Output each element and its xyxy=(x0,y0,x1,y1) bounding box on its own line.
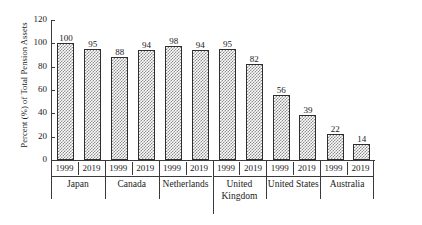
x-axis-group: 19992019Netherlands xyxy=(159,161,213,217)
country-label: Netherlands xyxy=(159,177,213,191)
year-row: 19992019 xyxy=(105,161,159,176)
bar-value-label: 82 xyxy=(250,54,259,64)
bars-layer: 1009588949894958256392214 xyxy=(52,20,375,160)
bar-chart: Percent (%) of Total Pension Assets 0204… xyxy=(0,0,422,225)
x-axis-group: 19992019Australia xyxy=(320,161,374,217)
x-axis-group: 19992019Canada xyxy=(105,161,159,217)
bar-value-label: 100 xyxy=(59,33,73,43)
y-tick-label: 120 xyxy=(34,14,48,24)
bar-value-label: 94 xyxy=(142,40,151,50)
bar-value-label: 98 xyxy=(169,36,178,46)
y-tick-label: 40 xyxy=(38,107,47,117)
bar: 98 xyxy=(165,46,182,160)
year-label: 1999 xyxy=(266,161,293,176)
country-label: Australia xyxy=(320,177,374,191)
year-label: 2019 xyxy=(347,161,374,176)
bar: 82 xyxy=(246,64,263,160)
country-label: Canada xyxy=(105,177,159,191)
y-tick-label: 80 xyxy=(38,61,47,71)
bar: 56 xyxy=(273,95,290,160)
bar-value-label: 95 xyxy=(223,39,232,49)
x-axis-category-table: 19992019Japan19992019Canada19992019Nethe… xyxy=(51,161,375,217)
year-row: 19992019 xyxy=(213,161,267,176)
bar-value-label: 56 xyxy=(277,85,286,95)
y-tick-label: 60 xyxy=(38,84,47,94)
bar-value-label: 39 xyxy=(303,105,312,115)
y-tick-label: 20 xyxy=(38,131,47,141)
country-label: United States xyxy=(266,177,320,191)
year-divider xyxy=(239,162,240,175)
y-axis-title: Percent (%) of Total Pension Assets xyxy=(19,5,29,165)
year-label: 1999 xyxy=(320,161,347,176)
bar-value-label: 22 xyxy=(331,124,340,134)
year-label: 2019 xyxy=(293,161,320,176)
year-label: 1999 xyxy=(159,161,186,176)
bar: 14 xyxy=(353,144,370,160)
year-divider xyxy=(132,162,133,175)
bar: 95 xyxy=(84,49,101,160)
year-label: 2019 xyxy=(78,161,105,176)
year-row: 19992019 xyxy=(159,161,213,176)
country-label: UnitedKingdom xyxy=(213,177,267,202)
country-label: Japan xyxy=(51,177,105,191)
y-tick-label: 0 xyxy=(43,154,48,164)
x-axis-group: 19992019UnitedKingdom xyxy=(213,161,267,217)
year-label: 2019 xyxy=(132,161,159,176)
year-divider xyxy=(347,162,348,175)
bar: 88 xyxy=(111,57,128,160)
bar: 94 xyxy=(138,50,155,160)
x-axis-group: 19992019Japan xyxy=(51,161,105,217)
x-axis-group: 19992019United States xyxy=(266,161,320,217)
year-divider xyxy=(186,162,187,175)
year-divider xyxy=(293,162,294,175)
year-label: 1999 xyxy=(105,161,132,176)
year-label: 2019 xyxy=(239,161,266,176)
bar-value-label: 88 xyxy=(115,47,124,57)
bar: 94 xyxy=(192,50,209,160)
bar-value-label: 94 xyxy=(196,40,205,50)
year-row: 19992019 xyxy=(266,161,320,176)
plot-area: 020406080100120 100958894989495825639221… xyxy=(52,20,375,160)
bar-value-label: 14 xyxy=(357,134,366,144)
bar-value-label: 95 xyxy=(88,39,97,49)
bar: 22 xyxy=(327,134,344,160)
year-label: 1999 xyxy=(213,161,240,176)
bar: 39 xyxy=(299,115,316,161)
year-divider xyxy=(78,162,79,175)
year-label: 1999 xyxy=(51,161,78,176)
year-label: 2019 xyxy=(186,161,213,176)
year-row: 19992019 xyxy=(320,161,374,176)
bar: 95 xyxy=(219,49,236,160)
bar: 100 xyxy=(57,43,74,160)
year-row: 19992019 xyxy=(51,161,105,176)
y-tick-label: 100 xyxy=(34,37,48,47)
